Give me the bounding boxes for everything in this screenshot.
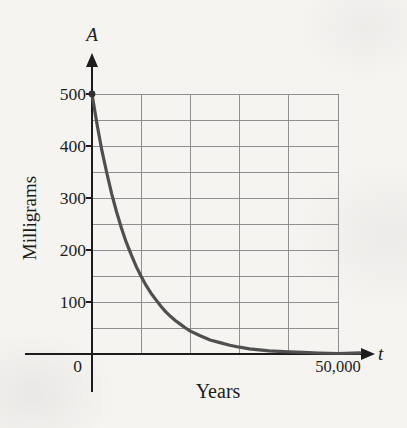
x-tick-label-50000: 50,000 (303, 357, 373, 377)
x-axis-letter: t (378, 344, 383, 364)
y-tick-label-300: 300 (40, 188, 86, 208)
origin-tick-label: 0 (50, 356, 82, 376)
y-tick-label-100: 100 (40, 292, 86, 312)
y-axis-title: Milligrams (20, 176, 40, 260)
y-axis-letter: A (80, 25, 104, 45)
y-tick-label-200: 200 (40, 240, 86, 260)
x-axis-title: Years (196, 381, 241, 401)
y-tick-label-400: 400 (40, 136, 86, 156)
y-tick-label-500: 500 (40, 84, 86, 104)
decay-chart-figure: A t 500 400 300 200 100 0 50,000 Milligr… (0, 0, 407, 428)
